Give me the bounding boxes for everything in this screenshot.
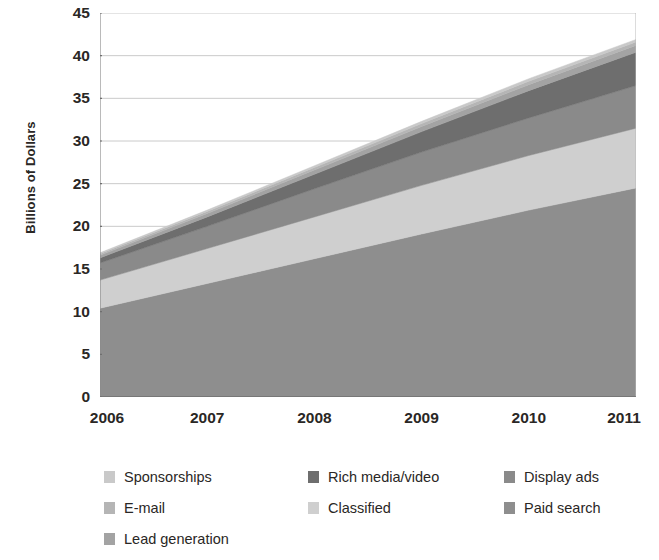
chart-legend: SponsorshipsRich media/videoDisplay adsE… xyxy=(104,470,656,556)
legend-swatch-icon xyxy=(104,502,115,514)
legend-label: E-mail xyxy=(124,501,165,516)
legend-label: Classified xyxy=(328,501,391,516)
legend-swatch-icon xyxy=(308,471,319,483)
legend-swatch-icon xyxy=(308,502,319,514)
legend-label: Rich media/video xyxy=(328,470,439,485)
legend-label: Lead generation xyxy=(124,532,229,547)
y-tick-label: 0 xyxy=(48,389,90,405)
plot-area xyxy=(100,13,636,397)
legend-item[interactable]: Paid search xyxy=(504,501,601,516)
x-axis-tick-labels: 200620072008200920102011 xyxy=(0,410,659,432)
y-tick-label: 45 xyxy=(48,5,90,21)
x-tick-label: 2010 xyxy=(512,410,546,426)
legend-item[interactable]: Classified xyxy=(308,501,391,516)
y-tick-label: 15 xyxy=(48,261,90,277)
x-tick-label: 2008 xyxy=(297,410,331,426)
y-tick-label: 5 xyxy=(48,347,90,363)
legend-label: Paid search xyxy=(524,501,601,516)
x-tick-label: 2006 xyxy=(90,410,124,426)
y-axis-tick-labels: 454035302520151050 xyxy=(42,0,90,560)
legend-swatch-icon xyxy=(504,471,515,483)
legend-swatch-icon xyxy=(104,471,115,483)
y-tick-label: 20 xyxy=(48,219,90,235)
x-tick-label: 2009 xyxy=(404,410,438,426)
y-tick-label: 10 xyxy=(48,304,90,320)
legend-item[interactable]: E-mail xyxy=(104,501,165,516)
area-bands xyxy=(100,39,636,397)
y-axis-title: Billions of Dollars xyxy=(23,88,38,268)
chart-figure: Billions of Dollars 454035302520151050 2… xyxy=(0,0,659,560)
legend-item[interactable]: Rich media/video xyxy=(308,470,439,485)
stacked-area-plot xyxy=(100,13,636,397)
x-tick-label: 2007 xyxy=(190,410,224,426)
legend-item[interactable]: Lead generation xyxy=(104,532,229,547)
legend-item[interactable]: Display ads xyxy=(504,470,599,485)
x-tick-label: 2011 xyxy=(607,410,641,426)
legend-swatch-icon xyxy=(504,502,515,514)
legend-swatch-icon xyxy=(104,533,115,545)
y-tick-label: 40 xyxy=(48,48,90,64)
y-tick-label: 25 xyxy=(48,176,90,192)
legend-label: Sponsorships xyxy=(124,470,212,485)
legend-label: Display ads xyxy=(524,470,599,485)
y-tick-label: 30 xyxy=(48,133,90,149)
legend-item[interactable]: Sponsorships xyxy=(104,470,212,485)
y-tick-label: 35 xyxy=(48,91,90,107)
